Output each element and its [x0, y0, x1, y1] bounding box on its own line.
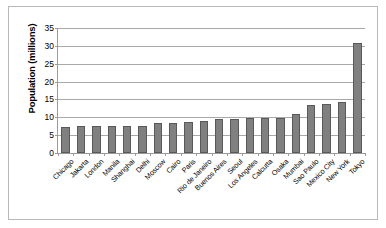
y-tick-label: 10: [45, 112, 54, 122]
bar: [246, 118, 254, 153]
x-tick-label: Cairo: [164, 157, 182, 175]
x-tick-mark: [212, 153, 213, 156]
bar: [92, 126, 100, 153]
x-tick-mark: [258, 153, 259, 156]
y-tick-label: 20: [45, 77, 54, 87]
bar: [338, 102, 346, 153]
y-tick-label: 0: [49, 148, 54, 158]
plot-area: 05101520253035 ChicagoJakartaLondonManil…: [57, 28, 365, 154]
x-tick-mark: [89, 153, 90, 156]
x-tick-mark: [350, 153, 351, 156]
bar: [77, 126, 85, 153]
x-tick-mark: [319, 153, 320, 156]
y-tick-label: 35: [45, 23, 54, 33]
bar: [215, 119, 223, 153]
x-tick-mark: [365, 153, 366, 156]
x-tick-mark: [58, 153, 59, 156]
bar-series: [58, 28, 365, 153]
y-axis-title: Population (millions): [26, 9, 37, 129]
bar: [200, 121, 208, 153]
x-tick-mark: [242, 153, 243, 156]
x-tick-mark: [181, 153, 182, 156]
x-tick-mark: [104, 153, 105, 156]
bar: [154, 123, 162, 153]
bar: [322, 104, 330, 153]
bar: [353, 43, 361, 153]
x-tick-mark: [73, 153, 74, 156]
bar: [261, 118, 269, 153]
bar: [307, 105, 315, 153]
bar: [138, 126, 146, 154]
x-tick-mark: [227, 153, 228, 156]
bar: [169, 123, 177, 153]
x-tick-mark: [150, 153, 151, 156]
bar: [123, 126, 131, 154]
bar: [184, 122, 192, 153]
x-tick-label: Tokyo: [347, 157, 366, 176]
bar: [292, 114, 300, 153]
bar: [108, 126, 116, 153]
y-tick-label: 15: [45, 94, 54, 104]
y-tick-label: 25: [45, 59, 54, 69]
y-tick-label: 5: [49, 130, 54, 140]
x-tick-mark: [165, 153, 166, 156]
x-tick-mark: [135, 153, 136, 156]
x-tick-mark: [119, 153, 120, 156]
bar: [230, 119, 238, 153]
x-tick-mark: [304, 153, 305, 156]
bar: [61, 127, 69, 153]
x-tick-mark: [273, 153, 274, 156]
y-tick-label: 30: [45, 41, 54, 51]
x-tick-mark: [288, 153, 289, 156]
x-tick-mark: [334, 153, 335, 156]
chart-frame: Population (millions) 05101520253035 Chi…: [8, 6, 378, 220]
bar: [276, 118, 284, 153]
x-tick-mark: [196, 153, 197, 156]
